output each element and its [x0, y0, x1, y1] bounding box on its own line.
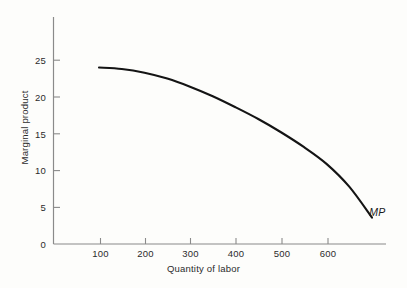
chart-plot-area [0, 0, 407, 288]
mp-curve-label: MP [369, 206, 385, 218]
x-tick-label-300: 300 [172, 248, 209, 259]
x-tick-marks [101, 238, 329, 244]
y-tick-label-0: 0 [22, 239, 46, 250]
y-tick-marks [54, 60, 61, 207]
x-tick-label-200: 200 [127, 248, 164, 259]
x-tick-label-400: 400 [218, 248, 255, 259]
x-tick-label-500: 500 [264, 248, 301, 259]
x-axis-title: Quantity of labor [0, 263, 407, 274]
marginal-product-curve [99, 68, 372, 218]
x-tick-label-100: 100 [82, 248, 119, 259]
y-tick-label-5: 5 [22, 202, 46, 213]
marginal-product-chart: 25 20 15 10 5 0 100 200 300 400 500 600 … [0, 0, 407, 288]
x-tick-label-600: 600 [310, 248, 347, 259]
y-axis-title: Marginal product [19, 58, 30, 198]
